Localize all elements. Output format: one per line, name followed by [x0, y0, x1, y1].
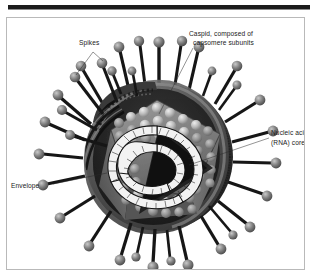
label-envelope-line-1: Envelope: [11, 182, 40, 190]
spike: [218, 201, 255, 232]
spike: [203, 67, 216, 96]
spike: [153, 36, 164, 86]
spike: [84, 211, 111, 251]
spike: [233, 158, 281, 169]
label-capsid-line-1: Caspid, composed of: [189, 30, 253, 38]
spike: [57, 105, 97, 130]
figure-page: Spikes Caspid, composed of capsomere sub…: [0, 0, 318, 280]
label-spikes: Spikes: [79, 39, 100, 47]
spike: [115, 223, 131, 265]
spike: [175, 36, 187, 85]
figure-frame: Spikes Caspid, composed of capsomere sub…: [6, 17, 305, 270]
spike: [225, 95, 265, 122]
spike: [189, 42, 204, 90]
spike: [34, 149, 83, 160]
label-capsid: Caspid, composed of capsomere subunits: [189, 30, 254, 47]
label-envelope: Envelope: [11, 182, 40, 190]
spike: [148, 229, 159, 269]
spike: [219, 81, 242, 111]
label-nucleic-acid: Nucleic acid (RNA) core: [271, 129, 304, 147]
virus-diagram: Spikes Caspid, composed of capsomere sub…: [7, 18, 304, 269]
spike: [55, 196, 95, 223]
spike: [134, 36, 145, 85]
top-rule-divider: [8, 5, 310, 10]
label-spikes-line-1: Spikes: [79, 39, 100, 47]
label-nucleic-line-2: (RNA) core: [271, 139, 304, 147]
spike: [228, 182, 272, 201]
spike: [166, 230, 175, 266]
spike: [38, 176, 85, 190]
label-capsid-line-2: capsomere subunits: [193, 39, 254, 47]
spike: [179, 226, 194, 269]
label-nucleic-line-1: Nucleic acid: [271, 129, 304, 136]
